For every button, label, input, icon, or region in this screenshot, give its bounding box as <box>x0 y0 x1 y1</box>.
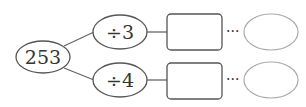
op-top-label: ÷3 <box>93 23 147 42</box>
op-bottom-label: ÷4 <box>93 71 147 90</box>
ellipsis-bottom: ··· <box>226 71 239 87</box>
final-ellipse-top[interactable] <box>244 14 298 50</box>
result-box-bottom[interactable] <box>167 63 222 99</box>
connector-top <box>64 32 94 46</box>
ellipsis-top: ··· <box>226 23 239 39</box>
result-box-top[interactable] <box>167 14 222 50</box>
connector-bottom <box>64 68 94 80</box>
final-ellipse-bottom[interactable] <box>244 62 298 98</box>
start-value: 253 <box>16 48 70 67</box>
